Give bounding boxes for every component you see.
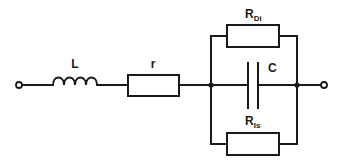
label-r: r [151, 57, 156, 71]
right-terminal [321, 82, 327, 88]
label-RDi-sub: Di [254, 14, 262, 23]
label-RIs-main: R [245, 114, 254, 128]
label-RDi: RDi [245, 7, 262, 23]
circuit-diagram: L r RDi C RIs [0, 0, 343, 165]
label-L: L [71, 57, 78, 71]
resistor-RDi [227, 25, 279, 47]
label-RDi-main: R [245, 7, 254, 21]
circuit-svg: L r RDi C RIs [0, 0, 343, 165]
junction-node-b [294, 82, 299, 87]
resistor-r [128, 75, 179, 96]
label-C: C [268, 61, 277, 75]
label-RIs: RIs [245, 114, 261, 130]
label-RIs-sub: Is [254, 121, 261, 130]
resistor-RIs [227, 133, 279, 155]
junction-node-a [208, 82, 213, 87]
inductor-L [53, 78, 97, 86]
